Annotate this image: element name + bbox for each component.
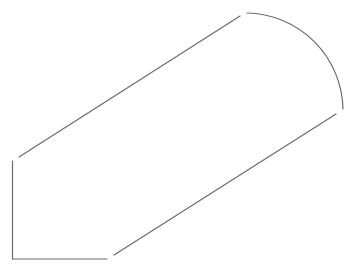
diagram-canvas [0,0,355,273]
upper-diagonal-line [19,16,240,157]
end-cap-arc [247,13,343,109]
lower-diagonal-line [114,114,336,255]
